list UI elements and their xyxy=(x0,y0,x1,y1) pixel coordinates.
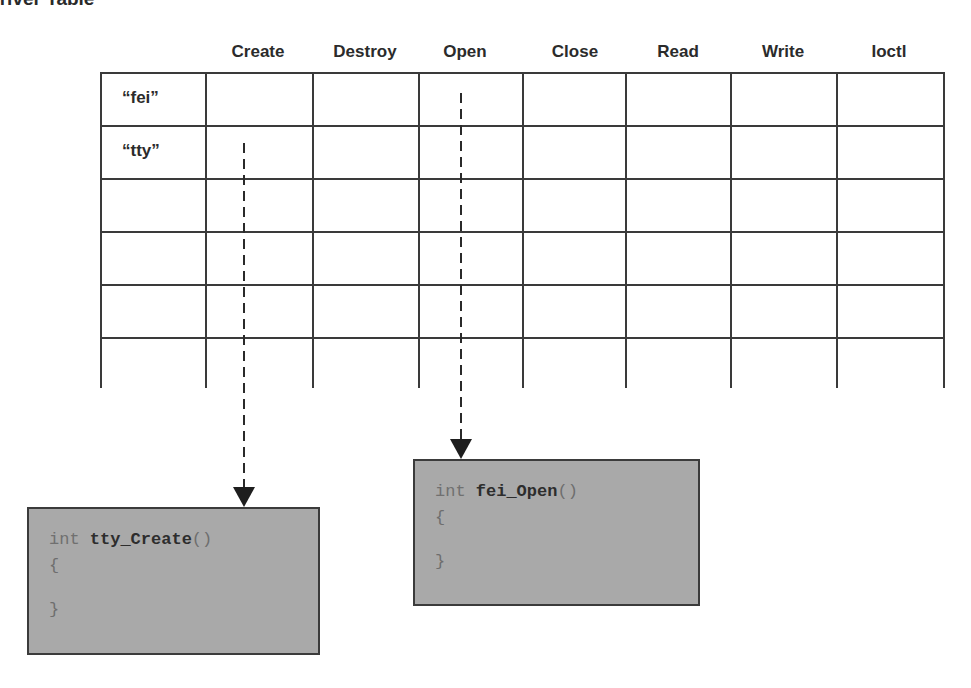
column-header-create: Create xyxy=(205,42,311,62)
grid-line xyxy=(730,72,732,388)
grid-line xyxy=(418,72,420,388)
column-header-ioctl: Ioctl xyxy=(836,42,942,62)
function-parens: () xyxy=(192,530,212,549)
column-header-read: Read xyxy=(625,42,731,62)
function-signature: int tty_Create() xyxy=(49,527,318,553)
grid-line xyxy=(943,72,945,388)
function-parens: () xyxy=(557,482,577,501)
column-header-destroy: Destroy xyxy=(312,42,418,62)
column-header-close: Close xyxy=(522,42,628,62)
column-header-open: Open xyxy=(412,42,518,62)
arrow-tty-create-line xyxy=(243,143,245,487)
grid-line xyxy=(205,72,207,388)
code-box-tty-create: int tty_Create() { } xyxy=(27,507,320,655)
arrowhead-down-icon xyxy=(233,487,255,507)
grid-line xyxy=(312,72,314,388)
function-name: fei_Open xyxy=(476,482,558,501)
function-signature: int fei_Open() xyxy=(435,479,698,505)
open-brace: { xyxy=(435,505,698,531)
function-name: tty_Create xyxy=(90,530,192,549)
close-brace: } xyxy=(435,549,698,575)
grid-line xyxy=(836,72,838,388)
row-label-fei: “fei” xyxy=(102,88,192,108)
diagram-title: Driver Table xyxy=(0,0,94,10)
arrow-fei-open-line xyxy=(460,93,462,439)
arrowhead-down-icon xyxy=(450,439,472,459)
grid-line xyxy=(100,72,102,388)
grid-line xyxy=(625,72,627,388)
return-type: int xyxy=(49,530,80,549)
return-type: int xyxy=(435,482,466,501)
code-box-fei-open: int fei_Open() { } xyxy=(413,459,700,606)
open-brace: { xyxy=(49,553,318,579)
close-brace: } xyxy=(49,597,318,623)
row-label-tty: “tty” xyxy=(102,141,192,161)
column-header-write: Write xyxy=(730,42,836,62)
grid-line xyxy=(522,72,524,388)
